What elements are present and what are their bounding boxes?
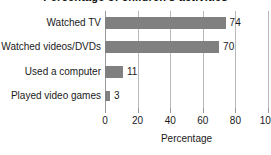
x-axis-title: Percentage [105, 133, 268, 144]
bar-value-label: 3 [114, 90, 120, 101]
category-label: Played video games [0, 90, 101, 101]
category-label: Used a computer [0, 66, 101, 77]
x-tick-20 [138, 108, 139, 113]
category-label: Watched TV [0, 17, 101, 28]
bar [105, 66, 123, 78]
x-tick-label-100: 100 [248, 115, 271, 126]
bar-chart: 0204060801007470113 Percentage Watched T… [0, 0, 271, 155]
bar-value-label: 74 [230, 17, 241, 28]
bar [105, 41, 219, 53]
x-tick-60 [203, 108, 204, 113]
x-tick-40 [170, 108, 171, 113]
bar [105, 91, 110, 101]
bar-value-label: 11 [127, 66, 137, 77]
category-label: Watched videos/DVDs [0, 41, 101, 52]
x-tick-100 [268, 108, 269, 113]
plot-area: 0204060801007470113 [105, 11, 268, 108]
x-tick-80 [235, 108, 236, 113]
bar-value-label: 70 [223, 41, 234, 52]
bar [105, 17, 226, 29]
gridline-100 [268, 11, 269, 108]
x-tick-0 [105, 108, 106, 113]
